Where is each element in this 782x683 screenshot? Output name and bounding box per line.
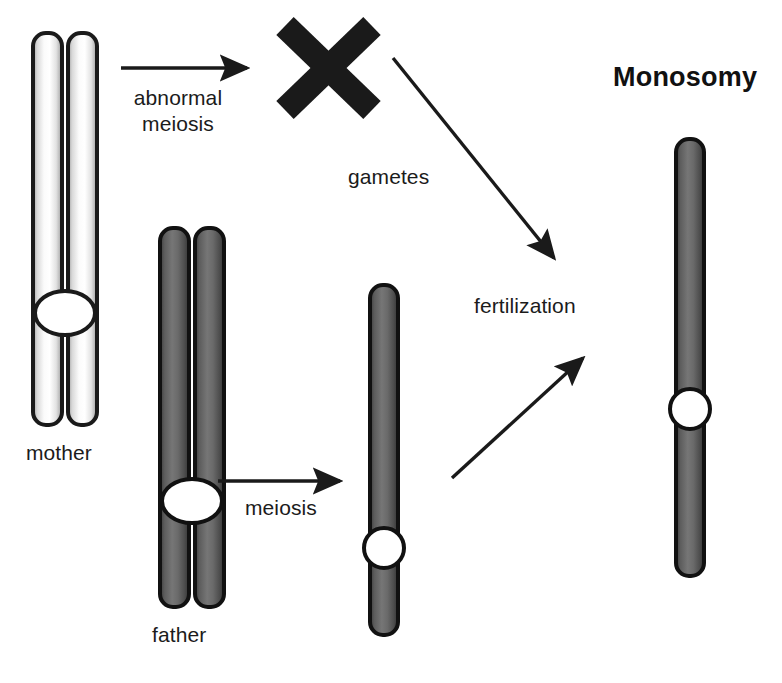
abnormal-meiosis-label-line1: abnormal	[108, 85, 248, 111]
monosomy-chromosome	[670, 139, 710, 576]
paternal-gamete-chromosome	[364, 285, 404, 635]
arrow-paternal-fertilization	[452, 358, 583, 478]
monosomy-centromere	[670, 389, 710, 429]
abnormal-meiosis-label-line2: meiosis	[108, 111, 248, 137]
father-centromere	[162, 479, 222, 523]
page-title: Monosomy	[613, 62, 757, 92]
gametes-label: gametes	[348, 164, 429, 190]
mother-chromosome-pair	[33, 33, 97, 425]
mother-centromere	[35, 291, 95, 335]
father-chromosome-pair	[160, 228, 224, 607]
paternal-gamete-centromere	[364, 528, 404, 568]
arrow-maternal-fertilization	[393, 58, 554, 258]
mother-label: mother	[26, 440, 92, 466]
fertilization-label: fertilization	[474, 293, 576, 319]
monosomy-diagram: Monosomy abnormal meiosis gametes fertil…	[0, 0, 782, 683]
mother-chromatid-right	[68, 33, 97, 425]
x-cross-mark	[285, 26, 372, 110]
meiosis-label: meiosis	[245, 495, 317, 521]
monosomy-chromatid	[676, 139, 704, 576]
father-chromatid-right	[195, 228, 224, 607]
paternal-gamete-chromatid	[370, 285, 398, 635]
father-label: father	[152, 622, 206, 648]
mother-chromatid-left	[33, 33, 62, 425]
father-chromatid-left	[160, 228, 189, 607]
